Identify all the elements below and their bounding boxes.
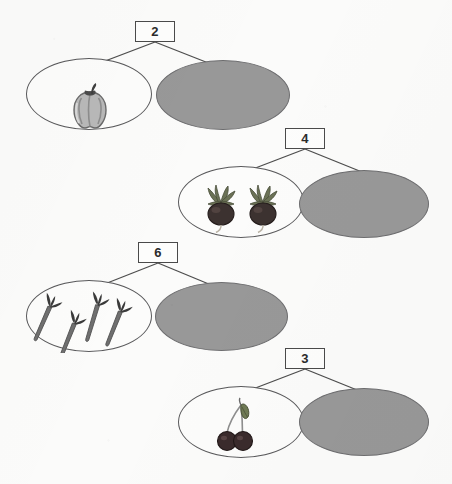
worksheet-canvas: 2 4 [0, 0, 452, 484]
cherry-icon [215, 397, 269, 455]
blank-ellipse-group-4[interactable] [299, 388, 429, 456]
number-box-group-4[interactable]: 3 [285, 348, 325, 369]
icon-row-group-4 [179, 391, 305, 455]
object-ellipse-group-4[interactable] [178, 386, 304, 458]
